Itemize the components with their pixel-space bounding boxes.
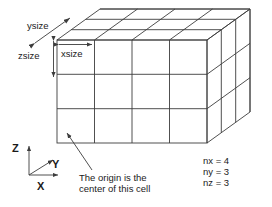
grid-count-legend: nx = 4 ny = 3 nz = 3 (203, 155, 229, 189)
box-back-edges (100, 9, 250, 112)
ysize-label: ysize (27, 20, 49, 31)
zsize-label: zsize (18, 50, 40, 61)
axis-label-x: X (37, 180, 44, 193)
axis-label-z: Z (12, 142, 19, 155)
origin-leader-line (67, 133, 92, 170)
xsize-label: xsize (61, 48, 83, 59)
diagram-canvas: ysize zsize xsize Z Y X The origin is th… (0, 0, 272, 207)
origin-annotation-line2: center of this cell (79, 183, 150, 194)
grid-count-nx: nx = 4 (203, 155, 229, 166)
box-right-face (207, 9, 250, 143)
origin-annotation-line1: The origin is the (79, 172, 150, 183)
origin-annotation: The origin is the center of this cell (79, 172, 150, 194)
axis-label-y: Y (52, 158, 59, 171)
grid-count-ny: ny = 3 (203, 166, 229, 177)
grid-count-nz: nz = 3 (203, 177, 229, 188)
